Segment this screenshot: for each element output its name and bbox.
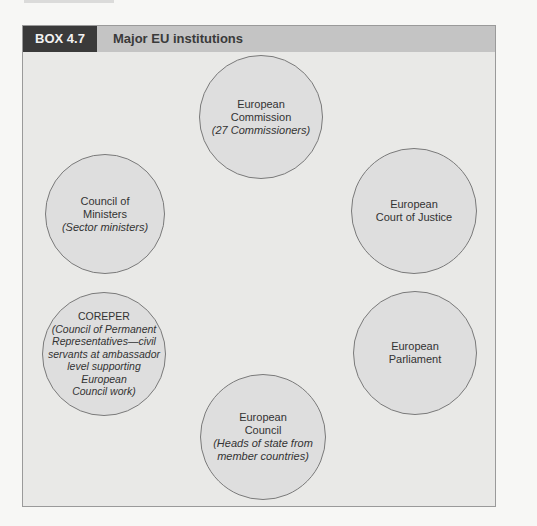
- institution-european-parliament: European Parliament: [353, 291, 477, 415]
- institution-note-line: servants at ambassador: [48, 348, 160, 361]
- institution-note-line: member countries): [217, 450, 309, 463]
- institution-note-line: (Heads of state from: [213, 437, 313, 450]
- institution-note-line: European: [81, 373, 127, 386]
- institution-name-line: European: [391, 340, 439, 353]
- institution-european-council: European Council (Heads of state from me…: [200, 374, 326, 500]
- cropped-text-fragment: [24, 0, 114, 3]
- institution-european-commission: European Commission (27 Commissioners): [199, 55, 323, 179]
- institution-note-line: (Council of Permanent: [52, 323, 156, 336]
- box-header: BOX 4.7 Major EU institutions: [23, 26, 495, 52]
- info-box: BOX 4.7 Major EU institutions European C…: [22, 25, 496, 507]
- institution-name-line: European: [390, 198, 438, 211]
- box-number-tab: BOX 4.7: [23, 26, 97, 52]
- institution-european-court-of-justice: European Court of Justice: [351, 148, 477, 274]
- institution-name-line: Commission: [231, 111, 292, 124]
- institution-name-line: COREPER: [78, 310, 130, 323]
- institution-coreper: COREPER (Council of Permanent Representa…: [42, 292, 166, 416]
- institution-note-line: Representatives—civil: [52, 335, 156, 348]
- institution-note-line: (27 Commissioners): [212, 124, 310, 137]
- institution-name-line: Court of Justice: [376, 211, 452, 224]
- institution-name-line: Parliament: [389, 353, 442, 366]
- institution-note-line: level supporting: [67, 360, 141, 373]
- institution-note-line: Council work): [72, 385, 136, 398]
- institution-note-line: (Sector ministers): [62, 221, 148, 234]
- institution-name-line: Council: [245, 424, 282, 437]
- box-title: Major EU institutions: [113, 26, 243, 52]
- institution-council-of-ministers: Council of Ministers (Sector ministers): [45, 154, 165, 274]
- institution-name-line: Ministers: [83, 208, 127, 221]
- institution-name-line: European: [237, 98, 285, 111]
- institution-name-line: European: [239, 411, 287, 424]
- institution-name-line: Council of: [81, 195, 130, 208]
